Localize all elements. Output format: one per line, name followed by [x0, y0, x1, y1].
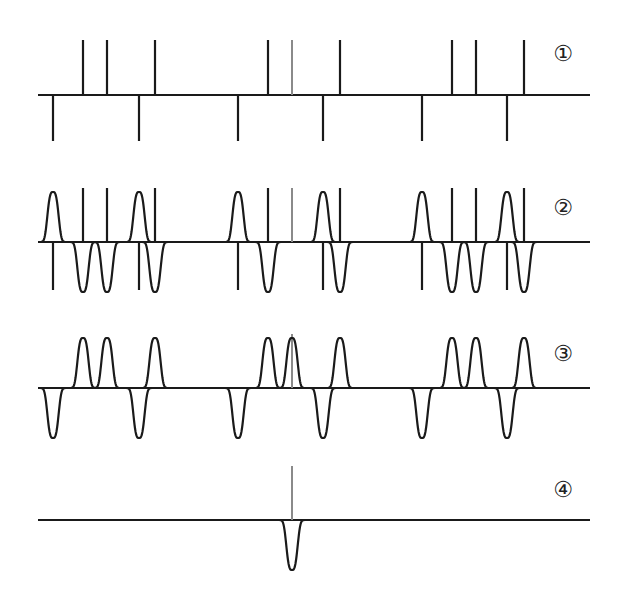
down-bump — [254, 242, 282, 292]
down-bump — [438, 242, 466, 292]
up-bump — [254, 338, 282, 388]
up-bump — [510, 338, 538, 388]
row-2-spikes-with-bumps — [38, 188, 590, 292]
up-bump — [462, 338, 490, 388]
row-4-label: ④ — [553, 477, 573, 502]
row-1-spike-train — [38, 40, 590, 141]
up-bump — [125, 192, 153, 242]
signal-diagram: ① ② ③ ④ — [0, 0, 622, 605]
down-bump — [224, 388, 252, 438]
down-bump — [462, 242, 490, 292]
row-4-single-event — [38, 466, 590, 570]
down-bump — [510, 242, 538, 292]
up-bump — [141, 338, 169, 388]
up-bump — [493, 192, 521, 242]
down-bump — [93, 242, 121, 292]
up-bump — [224, 192, 252, 242]
row-3-bump-train — [38, 334, 590, 438]
up-bump — [326, 338, 354, 388]
up-bump — [69, 338, 97, 388]
down-bump — [39, 388, 67, 438]
row-2-label: ② — [553, 195, 573, 220]
down-bump — [493, 388, 521, 438]
up-bump — [93, 338, 121, 388]
up-bump — [438, 338, 466, 388]
down-bump — [309, 388, 337, 438]
down-bump — [141, 242, 169, 292]
row-3-label: ③ — [553, 341, 573, 366]
up-bump — [408, 192, 436, 242]
down-bump — [326, 242, 354, 292]
down-bump — [408, 388, 436, 438]
down-bump — [69, 242, 97, 292]
up-bump — [309, 192, 337, 242]
up-bump — [39, 192, 67, 242]
down-bump — [125, 388, 153, 438]
down-bump — [278, 520, 306, 570]
row-1-label: ① — [553, 41, 573, 66]
